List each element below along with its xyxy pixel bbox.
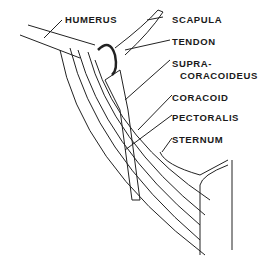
coracoid-shape [105, 70, 140, 200]
leader-humerus [44, 20, 62, 38]
label-pectoralis: PECTORALIS [172, 112, 239, 123]
label-humerus: HUMERUS [65, 14, 117, 25]
keel-line [200, 165, 228, 255]
anatomy-diagram: HUMERUS SCAPULA TENDON SUPRA- CORACOIDEU… [0, 0, 262, 267]
tendon-shape [98, 45, 116, 75]
label-supracoracoideus-line1: SUPRA- [172, 58, 212, 69]
leader-sternum [162, 138, 172, 152]
leader-pectoralis [125, 115, 172, 150]
leader-coracoid [138, 95, 172, 130]
label-coracoid: CORACOID [172, 92, 229, 103]
leader-supracoracoideus [125, 60, 170, 100]
scapula-shape [115, 10, 163, 55]
label-scapula: SCAPULA [172, 14, 222, 25]
label-tendon: TENDON [172, 36, 216, 47]
label-supracoracoideus-line2: CORACOIDEUS [180, 70, 258, 81]
label-sternum: STERNUM [172, 134, 223, 145]
sternum-shape [160, 152, 228, 175]
leader-tendon [125, 40, 170, 50]
humerus-line-bottom [20, 35, 80, 58]
